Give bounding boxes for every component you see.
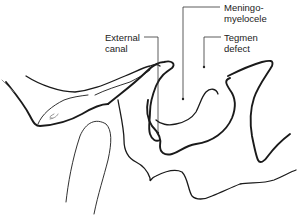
right-process-outline (228, 61, 290, 162)
tegmen-defect-leader (204, 37, 221, 67)
tegmen-defect-label-line1: Tegmen (224, 32, 258, 43)
tegmen-defect-label-line2: defect (224, 43, 258, 54)
tegmen-defect-label: Tegmen defect (224, 32, 258, 54)
canal-inner-line (38, 95, 88, 124)
external-canal-label: External canal (105, 32, 140, 54)
lower-central-outline (118, 100, 296, 199)
external-canal-pointer-dot (157, 132, 159, 134)
left-margin-line (2, 80, 14, 92)
meningomyelocele-label: Meningo- myelocele (224, 2, 267, 24)
meningomyelocele-label-line1: Meningo- (224, 2, 267, 13)
meningomyelocele-pointer-dot (182, 98, 184, 100)
sac-inner-outline (156, 89, 218, 125)
tegmen-defect-pointer-dot (203, 66, 205, 68)
sac-outline (147, 78, 235, 155)
lower-left-curve (66, 121, 111, 214)
external-canal-label-line1: External (105, 32, 140, 43)
meningomyelocele-label-line2: myelocele (224, 13, 267, 24)
meningomyelocele-leader (183, 7, 220, 99)
canal-small-mark (50, 114, 58, 119)
external-canal-label-line2: canal (105, 43, 140, 54)
